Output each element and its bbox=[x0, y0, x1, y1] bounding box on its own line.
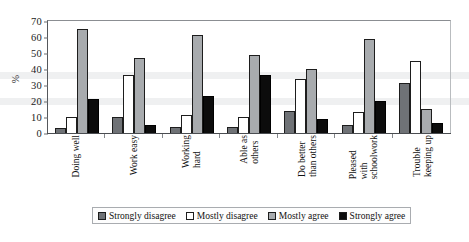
x-axis-label-line: than others bbox=[307, 135, 318, 177]
legend-label: Mostly agree bbox=[279, 211, 329, 221]
bar bbox=[375, 101, 386, 133]
bar bbox=[353, 112, 364, 133]
bar-group bbox=[105, 21, 162, 133]
x-axis-label-line: with bbox=[359, 135, 370, 179]
legend-swatch-icon bbox=[339, 212, 347, 220]
x-axis-label-cell: Doing well bbox=[47, 135, 105, 207]
bar bbox=[145, 125, 156, 133]
legend-label: Strongly disagree bbox=[109, 211, 176, 221]
bar-chart: % 706050403020100 Doing wellWork easyWor… bbox=[0, 0, 469, 242]
bar-group bbox=[163, 21, 220, 133]
x-axis-label-cell: Do betterthan others bbox=[278, 135, 336, 207]
y-axis-tick: 30 bbox=[31, 80, 48, 91]
legend-swatch-icon bbox=[98, 212, 106, 220]
bar-group bbox=[335, 21, 392, 133]
plot-area: 706050403020100 bbox=[47, 20, 451, 133]
bar-group bbox=[220, 21, 277, 133]
bar bbox=[317, 119, 328, 133]
bar-group bbox=[48, 21, 105, 133]
x-axis-label-cell: Able asothers bbox=[220, 135, 278, 207]
bar-group bbox=[393, 21, 450, 133]
x-axis-label-cell: Pleasedwithschoolwork bbox=[336, 135, 394, 207]
bar bbox=[181, 115, 192, 133]
x-axis-label-cell: Troublekeeping up bbox=[393, 135, 451, 207]
bar bbox=[399, 83, 410, 133]
x-axis-label: Do betterthan others bbox=[296, 135, 317, 177]
legend-label: Mostly disagree bbox=[197, 211, 258, 221]
bar bbox=[364, 39, 375, 133]
bar bbox=[295, 79, 306, 133]
bar bbox=[306, 69, 317, 133]
x-axis-label: Work easy bbox=[128, 135, 139, 175]
legend-item[interactable]: Mostly disagree bbox=[186, 211, 258, 221]
legend-swatch-icon bbox=[268, 212, 276, 220]
y-axis-tick: 60 bbox=[31, 32, 48, 43]
bar bbox=[238, 117, 249, 133]
bar bbox=[410, 61, 421, 133]
bar-groups bbox=[48, 21, 450, 133]
y-axis-tick: 40 bbox=[31, 64, 48, 75]
x-axis-label: Pleasedwithschoolwork bbox=[349, 135, 381, 179]
bar bbox=[112, 117, 123, 133]
legend-item[interactable]: Mostly agree bbox=[268, 211, 329, 221]
y-axis-tick: 20 bbox=[31, 96, 48, 107]
bar bbox=[88, 99, 99, 133]
bar-group bbox=[278, 21, 335, 133]
bar bbox=[284, 111, 295, 133]
x-axis-label-line: Working bbox=[181, 135, 192, 168]
y-axis-tick: 70 bbox=[31, 16, 48, 27]
y-axis-label: % bbox=[3, 72, 29, 86]
legend-item[interactable]: Strongly disagree bbox=[98, 211, 176, 221]
bar bbox=[260, 75, 271, 133]
x-axis-label: Troublekeeping up bbox=[412, 135, 433, 177]
bar bbox=[249, 55, 260, 133]
x-axis-label-line: Trouble bbox=[412, 135, 423, 177]
x-axis-label: Able asothers bbox=[239, 135, 260, 164]
x-axis-label: Workinghard bbox=[181, 135, 202, 168]
x-axis-label-cell: Workinghard bbox=[162, 135, 220, 207]
legend-swatch-icon bbox=[186, 212, 194, 220]
chart-legend: Strongly disagreeMostly disagreeMostly a… bbox=[92, 207, 411, 224]
y-axis-tick: 50 bbox=[31, 48, 48, 59]
bar bbox=[192, 35, 203, 133]
y-axis-tick: 10 bbox=[31, 112, 48, 123]
x-axis-label-line: Able as bbox=[239, 135, 250, 164]
bar bbox=[203, 96, 214, 133]
bar bbox=[432, 123, 443, 133]
x-axis-labels: Doing wellWork easyWorkinghardAble asoth… bbox=[47, 135, 451, 207]
x-axis-label-line: Doing well bbox=[71, 135, 82, 177]
x-axis-label-line: others bbox=[249, 135, 260, 164]
legend-item[interactable]: Strongly agree bbox=[339, 211, 406, 221]
x-axis-label-cell: Work easy bbox=[105, 135, 163, 207]
bar bbox=[66, 117, 77, 133]
x-axis-label-line: hard bbox=[191, 135, 202, 168]
x-axis-label-line: Do better bbox=[296, 135, 307, 177]
bar bbox=[123, 75, 134, 133]
x-axis-label-line: schoolwork bbox=[370, 135, 381, 179]
legend-label: Strongly agree bbox=[350, 211, 406, 221]
bar bbox=[421, 109, 432, 133]
x-axis-label-line: Work easy bbox=[128, 135, 139, 175]
bar bbox=[342, 125, 353, 133]
bar bbox=[77, 29, 88, 133]
x-axis-label-line: Pleased bbox=[349, 135, 360, 179]
x-axis-label-line: keeping up bbox=[422, 135, 433, 177]
bar bbox=[134, 58, 145, 133]
x-axis-label: Doing well bbox=[71, 135, 82, 177]
